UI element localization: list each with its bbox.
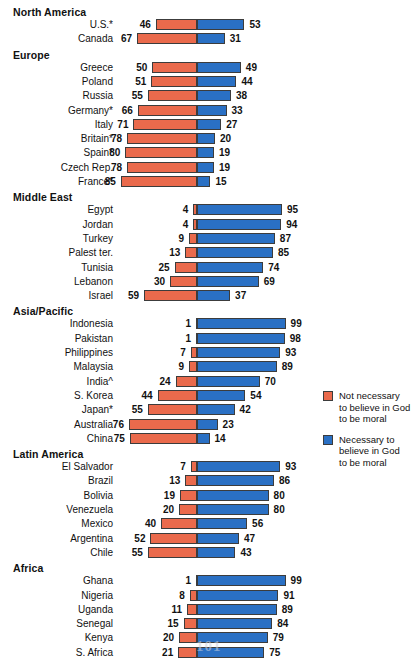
legend-item: Not necessaryto believe in Godto be mora…: [323, 390, 413, 425]
country-label: El Salvador: [62, 461, 113, 473]
chart-legend: Not necessaryto believe in Godto be mora…: [323, 390, 413, 477]
country-label: Turkey: [83, 233, 113, 245]
region-header: Africa: [13, 562, 43, 574]
bar-not-necessary: [184, 618, 197, 629]
country-label: U.S.*: [90, 19, 113, 31]
bar-necessary: [197, 390, 245, 401]
value-not-necessary: 85: [96, 176, 116, 188]
value-necessary: 86: [279, 475, 290, 487]
value-not-necessary: 25: [150, 262, 170, 274]
bar-necessary: [197, 276, 259, 287]
value-necessary: 98: [290, 333, 301, 345]
value-not-necessary: 11: [162, 604, 182, 616]
value-necessary: 53: [249, 19, 260, 31]
bar-row: Greece5049: [0, 62, 413, 74]
bar-row: Poland5144: [0, 76, 413, 88]
country-label: India^: [87, 376, 113, 388]
value-not-necessary: 4: [168, 204, 188, 216]
bar-not-necessary: [148, 90, 197, 101]
value-necessary: 19: [219, 162, 230, 174]
bar-necessary: [197, 19, 244, 30]
bar-row: Britain*7820: [0, 133, 413, 145]
value-necessary: 20: [220, 133, 231, 145]
value-not-necessary: 15: [159, 618, 179, 630]
value-not-necessary: 46: [131, 19, 151, 31]
bar-not-necessary: [175, 262, 197, 273]
country-label: Canada: [78, 33, 113, 45]
value-necessary: 85: [278, 247, 289, 259]
bar-not-necessary: [151, 76, 197, 87]
bar-necessary: [197, 547, 235, 558]
value-necessary: 70: [265, 376, 276, 388]
bar-necessary: [197, 262, 263, 273]
bar-necessary: [197, 347, 280, 358]
value-not-necessary: 59: [119, 290, 139, 302]
country-label: Germany*: [68, 105, 113, 117]
country-label: Chile: [90, 547, 113, 559]
country-label: Greece: [80, 62, 113, 74]
bar-necessary: [197, 90, 231, 101]
bar-necessary: [197, 618, 272, 629]
country-label: Senegal: [76, 618, 113, 630]
country-label: S. Africa: [76, 647, 113, 659]
bar-not-necessary: [190, 590, 197, 601]
bar-not-necessary: [185, 247, 197, 258]
value-not-necessary: 20: [154, 632, 174, 644]
country-label: Philippines: [65, 347, 113, 359]
bar-row: Spain*8019: [0, 147, 413, 159]
bar-necessary: [197, 475, 274, 486]
bar-necessary: [197, 62, 241, 73]
country-label: Uganda: [78, 604, 113, 616]
bar-necessary: [197, 461, 280, 472]
value-necessary: 27: [226, 119, 237, 131]
legend-label-line: believe in God: [339, 445, 413, 457]
bar-row: Palest ter.1385: [0, 247, 413, 259]
bar-row: Mexico4056: [0, 518, 413, 530]
value-necessary: 75: [269, 647, 280, 659]
bar-not-necessary: [161, 518, 197, 529]
region-header: Asia/Pacific: [13, 305, 73, 317]
value-not-necessary: 1: [171, 575, 191, 587]
bar-row: France*8515: [0, 176, 413, 188]
bar-not-necessary: [148, 547, 197, 558]
value-necessary: 14: [215, 433, 226, 445]
bar-not-necessary: [178, 647, 197, 658]
bar-not-necessary: [137, 33, 197, 44]
value-not-necessary: 8: [165, 590, 185, 602]
value-necessary: 74: [268, 262, 279, 274]
bar-necessary: [197, 290, 230, 301]
country-label: Tunisia: [81, 262, 113, 274]
value-necessary: 49: [246, 62, 257, 74]
bar-not-necessary: [179, 504, 197, 515]
bar-not-necessary: [127, 162, 197, 173]
value-necessary: 94: [286, 219, 297, 231]
bar-not-necessary: [150, 533, 197, 544]
page-number-artifact: 101: [196, 638, 222, 655]
bar-row: Lebanon3069: [0, 276, 413, 288]
bar-necessary: [197, 333, 285, 344]
bar-row: Malaysia989: [0, 361, 413, 373]
value-not-necessary: 78: [102, 162, 122, 174]
bar-row: Argentina5247: [0, 533, 413, 545]
bar-row: Egypt495: [0, 204, 413, 216]
value-not-necessary: 4: [168, 219, 188, 231]
bar-necessary: [197, 147, 214, 158]
value-not-necessary: 1: [171, 318, 191, 330]
legend-swatch-icon: [323, 435, 333, 445]
value-necessary: 19: [219, 147, 230, 159]
bar-row: Brazil1386: [0, 475, 413, 487]
value-not-necessary: 80: [100, 147, 120, 159]
value-not-necessary: 20: [154, 504, 174, 516]
value-necessary: 95: [287, 204, 298, 216]
value-necessary: 42: [240, 404, 251, 416]
bar-row: Philippines793: [0, 347, 413, 359]
region-header: Europe: [13, 49, 50, 61]
country-label: Jordan: [82, 219, 113, 231]
bar-necessary: [197, 76, 236, 87]
bar-necessary: [197, 162, 214, 173]
bar-necessary: [197, 133, 215, 144]
bar-necessary: [197, 176, 210, 187]
bar-not-necessary: [148, 404, 197, 415]
bar-row: Israel5937: [0, 290, 413, 302]
bar-necessary: [197, 376, 260, 387]
